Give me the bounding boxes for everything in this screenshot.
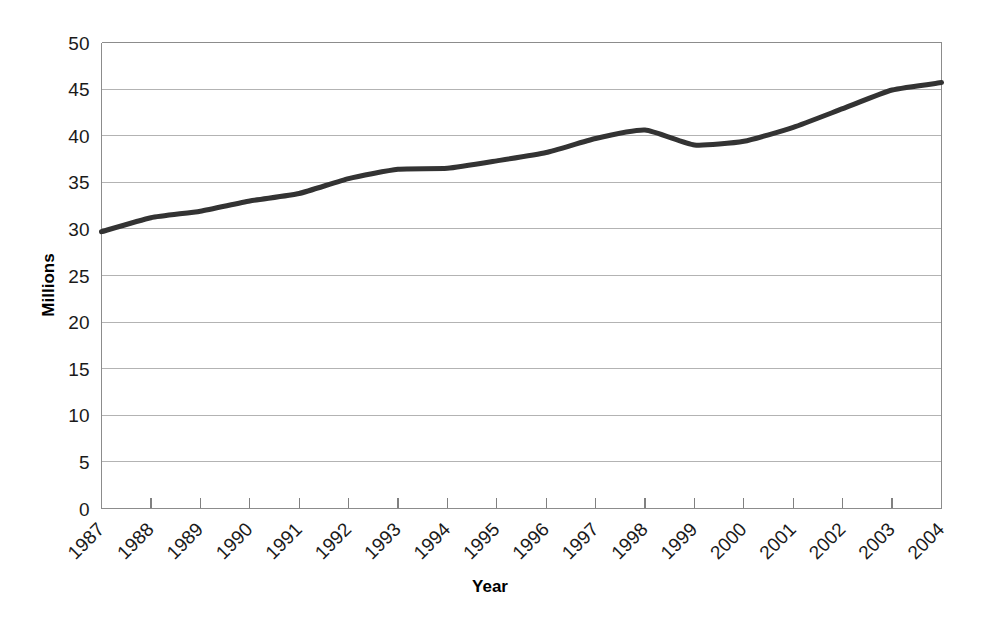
y-tick-label: 45 (68, 79, 89, 100)
y-tick-label: 10 (68, 405, 89, 426)
y-tick-label: 25 (68, 266, 89, 287)
y-axis-title: Millions (39, 253, 58, 316)
y-tick-label: 40 (68, 126, 89, 147)
x-axis-title: Year (472, 577, 508, 596)
y-tick-label: 20 (68, 312, 89, 333)
y-tick-label: 35 (68, 172, 89, 193)
line-chart: 05101520253035404550 1987198819891990199… (0, 0, 990, 633)
y-tick-label: 0 (79, 499, 90, 520)
chart-canvas: 05101520253035404550 1987198819891990199… (0, 0, 990, 633)
y-tick-label: 15 (68, 359, 89, 380)
y-tick-label: 5 (79, 452, 90, 473)
y-tick-label: 50 (68, 33, 89, 54)
y-tick-label: 30 (68, 219, 89, 240)
